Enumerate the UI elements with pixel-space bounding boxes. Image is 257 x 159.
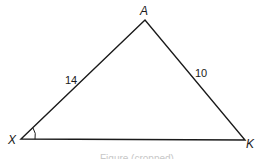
triangle-XAK [21,20,245,140]
angle-mark-x [33,128,35,139]
side-label-ak: 10 [195,67,207,79]
vertex-label-k: K [246,137,255,151]
triangle-diagram: A X K 14 10 Figure (cropped) [0,0,257,159]
vertex-label-x: X [7,133,17,147]
vertex-label-a: A [139,4,148,18]
figure-caption: Figure (cropped) [100,153,174,159]
side-label-xa: 14 [65,74,77,86]
